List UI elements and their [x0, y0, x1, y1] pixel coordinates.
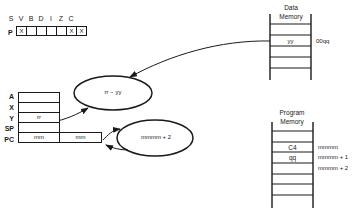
program-memory-title-2: Memory — [266, 118, 318, 125]
data-memory-title-1: Data — [270, 4, 312, 11]
data-memory-cell-address: 00qq — [316, 38, 329, 44]
program-memory-cell-0-address: mmmm — [318, 144, 338, 150]
register-x-label: X — [0, 104, 14, 111]
status-register-label: P — [8, 29, 13, 37]
program-memory-cell-1-address: mmmm + 1 — [318, 154, 348, 160]
flag-c-label: C — [66, 15, 76, 22]
register-y-label: Y — [0, 115, 14, 122]
program-memory-cell-0-value: C4 — [272, 144, 313, 151]
flag-v-label: V — [16, 15, 26, 22]
flag-c-cell: X — [76, 26, 87, 36]
register-pc-high: mm — [18, 132, 60, 143]
program-memory-cell-2-address: mmmm + 2 — [318, 165, 348, 171]
flag-b-label: B — [26, 15, 36, 22]
flag-letters: S V B D I Z C — [6, 15, 96, 24]
program-memory-cell-1-value: qq — [272, 154, 313, 161]
data-memory-cell-value: yy — [270, 38, 311, 44]
flag-i-label: I — [46, 15, 56, 22]
register-pc-label: PC — [0, 136, 14, 143]
flag-z-label: Z — [56, 15, 66, 22]
register-sp-label: SP — [0, 125, 14, 132]
data-memory-title-2: Memory — [268, 13, 314, 20]
register-pc-low: mm — [59, 132, 102, 143]
pc-increment-label: mmmm + 2 — [125, 134, 187, 140]
program-memory-title-1: Program — [266, 109, 318, 116]
flag-d-label: D — [36, 15, 46, 22]
subtract-operation-label: rr − yy — [84, 89, 142, 95]
flag-cells: X X X — [16, 26, 86, 36]
register-a-label: A — [0, 93, 14, 100]
flag-s-label: S — [6, 15, 16, 22]
